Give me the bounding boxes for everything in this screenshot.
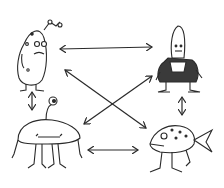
arrow-top-horizontal — [60, 47, 152, 49]
arrow-diagonal-tl-br — [65, 70, 146, 128]
fish-creature — [150, 126, 212, 172]
pickle-creature — [18, 20, 62, 91]
dome-creature — [12, 97, 82, 168]
bullet-creature — [156, 26, 202, 92]
creature-network-diagram — [0, 0, 224, 188]
arrow-diagonal-tr-bl — [84, 76, 152, 124]
